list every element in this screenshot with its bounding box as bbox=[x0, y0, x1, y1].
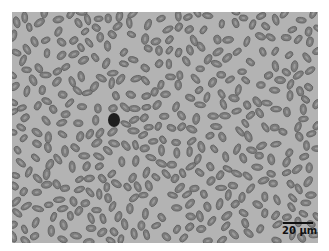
micrograph-image bbox=[12, 12, 318, 243]
scale-bar-label: 20 µm bbox=[282, 225, 317, 236]
cell-field bbox=[12, 12, 318, 243]
scale-bar-line bbox=[283, 222, 313, 224]
scale-bar: 20 µm bbox=[282, 220, 316, 240]
